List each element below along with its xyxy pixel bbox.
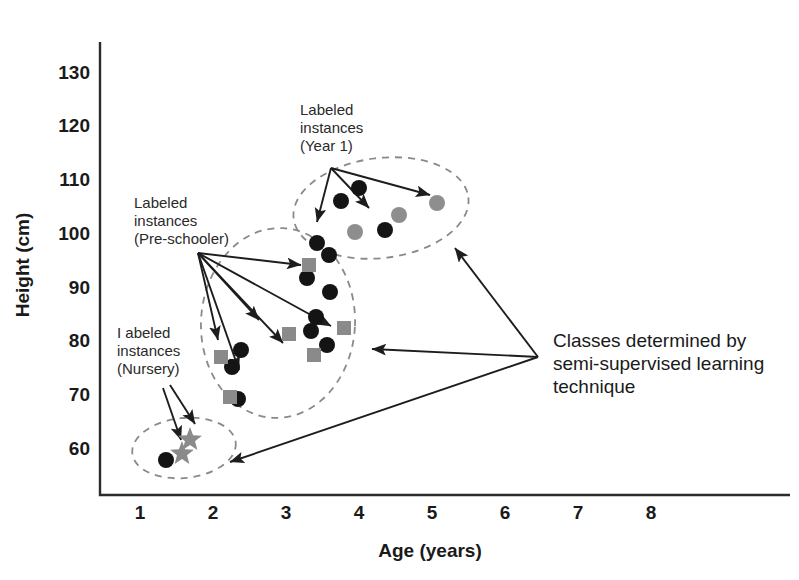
x-tick-7: 7 (573, 502, 584, 523)
arrow-classes-pre (372, 349, 538, 357)
data-point (347, 224, 363, 240)
markers-labeled-stars (170, 427, 202, 464)
data-point (351, 180, 367, 196)
x-tick-1: 1 (135, 502, 146, 523)
data-point (337, 321, 351, 335)
data-point (391, 207, 407, 223)
data-point (319, 337, 335, 353)
annotation-nursery-line3: (Nursery) (117, 360, 180, 377)
y-tick-70: 70 (69, 384, 90, 405)
annotation-nursery: I abeled instances (Nursery) (117, 324, 180, 377)
annotation-year-1: Labeled instances (Year 1) (300, 101, 363, 154)
annotation-year1-line3: (Year 1) (300, 137, 353, 154)
arrow-year1-c (331, 168, 430, 195)
y-axis-title: Height (cm) (12, 213, 33, 318)
data-point (309, 235, 325, 251)
y-tick-60: 60 (69, 438, 90, 459)
data-point (321, 247, 337, 263)
y-tick-100: 100 (58, 223, 90, 244)
annotation-year1-line2: instances (300, 119, 363, 136)
annotation-pre-schooler: Labeled instances (Pre-schooler) (134, 194, 229, 247)
y-tick-120: 120 (58, 115, 90, 136)
arrows-year-1 (317, 168, 430, 222)
y-tick-labels: 130 120 110 100 90 80 70 60 (58, 62, 90, 459)
arrow-pre-d (198, 253, 283, 343)
y-tick-80: 80 (69, 330, 90, 351)
data-point (302, 258, 316, 272)
x-tick-2: 2 (208, 502, 219, 523)
x-tick-labels: 1 2 3 4 5 6 7 8 (135, 502, 657, 523)
data-point (333, 193, 349, 209)
data-point (223, 390, 237, 404)
y-tick-130: 130 (58, 62, 90, 83)
x-tick-3: 3 (281, 502, 292, 523)
data-point (299, 270, 315, 286)
annotation-year1-line1: Labeled (300, 101, 353, 118)
data-point (308, 309, 324, 325)
x-tick-5: 5 (427, 502, 438, 523)
data-point (233, 342, 249, 358)
x-tick-6: 6 (500, 502, 511, 523)
arrow-classes-nursery (230, 357, 538, 462)
annotation-classes: Classes determined by semi-supervised le… (553, 330, 764, 397)
data-point (322, 284, 338, 300)
annotation-classes-line1: Classes determined by (553, 330, 747, 351)
annotation-pre-line3: (Pre-schooler) (134, 230, 229, 247)
annotation-pre-line2: instances (134, 212, 197, 229)
arrow-pre-a (198, 253, 301, 265)
annotation-classes-line3: technique (553, 376, 635, 397)
data-point (214, 350, 228, 364)
annotation-classes-line2: semi-supervised learning (553, 353, 764, 374)
arrows-classes (230, 248, 538, 462)
data-point (158, 452, 174, 468)
y-tick-90: 90 (69, 277, 90, 298)
data-point (429, 195, 445, 211)
data-point (377, 222, 393, 238)
markers-labeled-squares (214, 258, 351, 404)
x-tick-8: 8 (646, 502, 657, 523)
annotation-pre-line1: Labeled (134, 194, 187, 211)
arrow-year1-a (317, 168, 331, 222)
arrow-classes-year1 (455, 248, 538, 357)
markers-labeled-circles (347, 195, 445, 240)
data-point (282, 327, 296, 341)
arrow-nursery-a (163, 388, 181, 440)
annotation-nursery-line1: I abeled (117, 324, 170, 341)
x-tick-4: 4 (354, 502, 365, 523)
scatter-plot-figure: 130 120 110 100 90 80 70 60 1 2 3 4 5 6 … (0, 0, 799, 580)
data-point (307, 348, 321, 362)
y-tick-110: 110 (59, 169, 90, 190)
plot-svg: 130 120 110 100 90 80 70 60 1 2 3 4 5 6 … (0, 0, 799, 580)
annotation-nursery-line2: instances (117, 342, 180, 359)
x-axis-title: Age (years) (378, 540, 482, 561)
data-point (303, 323, 319, 339)
